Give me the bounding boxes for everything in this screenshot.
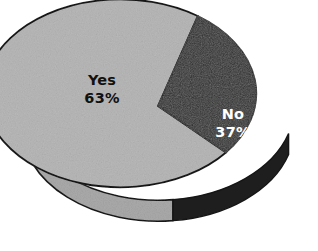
pie-top-faces — [0, 0, 256, 187]
pie-label-no-name: No — [222, 106, 245, 122]
pie-chart-canvas: Yes 63% No 37% — [0, 0, 318, 251]
pie-label-yes-name: Yes — [87, 72, 116, 88]
pie-label-no-value: 37% — [215, 124, 251, 140]
pie-label-yes-value: 63% — [84, 90, 120, 106]
pie-chart-figure: Yes 63% No 37% — [0, 0, 318, 251]
